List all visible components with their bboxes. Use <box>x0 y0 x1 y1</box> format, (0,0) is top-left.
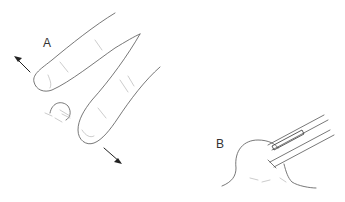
arrow-down-right-icon <box>104 148 122 164</box>
forceps-icon <box>268 115 334 168</box>
panel-label-a: A <box>43 36 51 50</box>
illustration-drawing <box>0 0 345 202</box>
panel-label-b: B <box>216 137 224 151</box>
nodule-a-icon <box>45 103 70 122</box>
medical-illustration: A B <box>0 0 345 202</box>
nodule-b-icon <box>222 140 316 188</box>
arrow-up-left-icon <box>14 56 30 72</box>
upper-finger-icon <box>34 13 160 144</box>
